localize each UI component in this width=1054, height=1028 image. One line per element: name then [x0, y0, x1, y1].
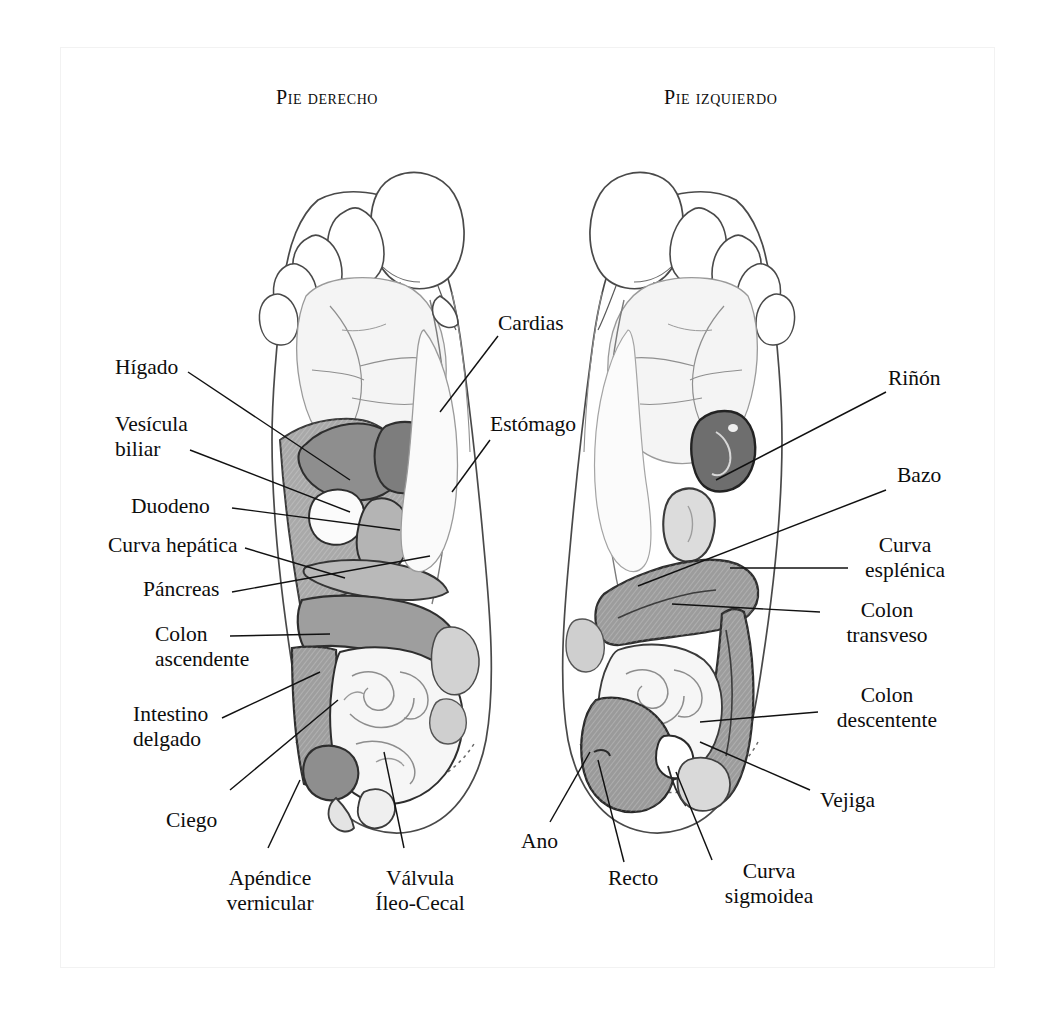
label-ano: Ano — [521, 829, 558, 854]
label-pancreas: Páncreas — [143, 577, 219, 602]
label-ciego: Ciego — [166, 808, 217, 833]
label-vejiga: Vejiga — [820, 788, 875, 813]
label-curva-sigmoidea-line1: Curva — [743, 859, 796, 883]
left-lower-lateral-zone — [566, 619, 604, 672]
label-vesicula-biliar-line2: biliar — [115, 437, 160, 461]
label-colon-transveso: Colontransveso — [824, 598, 950, 648]
label-vesicula-biliar: Vesículabiliar — [115, 412, 188, 462]
label-curva-hepatica: Curva hepática — [108, 533, 238, 558]
right-lower-lateral-zone — [432, 627, 480, 695]
right-cecum-zone — [303, 746, 358, 801]
label-colon-descentente-line1: Colon — [861, 683, 914, 707]
right-foot-heading: Pie derecho — [276, 86, 378, 109]
label-bazo: Bazo — [897, 463, 941, 488]
label-colon-ascendente: Colonascendente — [155, 622, 249, 672]
label-curva-sigmoidea: Curvasigmoidea — [714, 859, 824, 909]
label-vesicula-biliar-line1: Vesícula — [115, 412, 188, 436]
label-colon-descentente-line2: descentente — [837, 708, 937, 732]
label-colon-transveso-line1: Colon — [861, 598, 914, 622]
label-colon-ascendente-line1: Colon — [155, 622, 208, 646]
left-spleen-zone — [663, 488, 714, 561]
label-valvula-ileo-cecal-line2: Íleo-Cecal — [375, 891, 465, 915]
label-colon-ascendente-line2: ascendente — [155, 647, 249, 671]
leader-apendice-vernicular — [268, 780, 300, 848]
label-recto: Recto — [608, 866, 658, 891]
label-colon-transveso-line2: transveso — [846, 623, 927, 647]
label-rinon: Riñón — [888, 366, 941, 391]
label-cardias: Cardias — [498, 311, 564, 336]
label-duodeno: Duodeno — [131, 494, 210, 519]
label-curva-sigmoidea-line2: sigmoidea — [725, 884, 813, 908]
label-higado: Hígado — [115, 355, 178, 380]
label-intestino-delgado: Intestinodelgado — [133, 702, 208, 752]
label-curva-esplenica-line2: esplénica — [865, 558, 945, 582]
left-foot-heading: Pie izquierdo — [664, 86, 777, 109]
label-curva-esplenica-line1: Curva — [879, 533, 932, 557]
left-foot-drawing — [563, 173, 795, 833]
right-gallbladder-zone — [309, 490, 364, 545]
label-apendice-vernicular-line1: Apéndice — [229, 866, 311, 890]
label-apendice-vernicular: Apéndicevernicular — [210, 866, 330, 916]
label-intestino-delgado-line2: delgado — [133, 727, 201, 751]
left-kidney-zone — [691, 411, 755, 491]
left-bladder-zone — [677, 758, 730, 811]
label-intestino-delgado-line1: Intestino — [133, 702, 208, 726]
label-colon-descentente: Colondescentente — [816, 683, 958, 733]
label-valvula-ileo-cecal-line1: Válvula — [386, 866, 454, 890]
reflexology-chart-page: Pie derecho Pie izquierdo Hígado Vesícul… — [0, 0, 1054, 1028]
label-curva-esplenica: Curvaesplénica — [846, 533, 964, 583]
label-apendice-vernicular-line2: vernicular — [226, 891, 313, 915]
right-ileocecal-valve-zone — [358, 789, 395, 828]
left-big-toe — [590, 173, 683, 289]
label-valvula-ileo-cecal: VálvulaÍleo-Cecal — [360, 866, 480, 916]
label-estomago: Estómago — [490, 412, 576, 437]
right-foot-drawing — [259, 173, 491, 833]
right-big-toe — [371, 173, 464, 289]
